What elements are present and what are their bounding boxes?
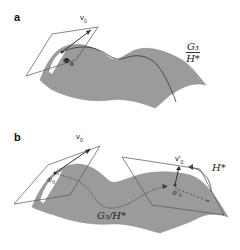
label-v0-prime: v'0 [175,155,183,165]
orbit-end-point [207,200,209,202]
manifold-surface-b [0,125,240,250]
group-action-arrowhead [188,164,193,170]
label-quotient-space: G₃/H* [97,211,126,221]
vector-prime-arrowhead [176,166,181,170]
label-group-h-star: H* [212,163,226,173]
label-v0: v0 [76,133,83,143]
label-phi0-prime: Φ'0 [172,190,182,198]
panel-letter-a: a [14,11,20,23]
vector-arrowhead [85,149,91,154]
label-phi0: Φ0 [47,177,55,185]
manifold-surface-a [0,0,240,125]
point-phi0-prime [174,184,177,187]
label-v0: v0 [80,14,87,24]
point-phi0 [54,172,57,175]
panel-a: a v0 Φ0 G₃ H* [0,0,240,125]
panel-b: b v0 Φ0 v'0 Φ'0 H* G₃/H* [0,125,240,250]
panel-letter-b: b [14,131,21,143]
point-phi0 [61,51,64,54]
label-phi0: Φ0 [63,56,73,67]
label-quotient-space: G₃ H* [186,41,200,64]
vector-arrowhead [86,30,91,35]
